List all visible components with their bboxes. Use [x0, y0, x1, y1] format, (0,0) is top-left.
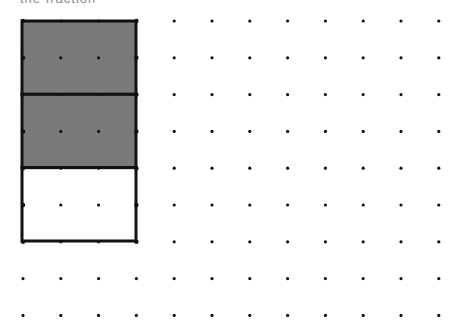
grid-dot	[324, 277, 327, 280]
grid-dot	[59, 93, 62, 96]
grid-dot	[437, 130, 440, 133]
grid-dot	[248, 167, 251, 170]
grid-dot	[134, 203, 138, 207]
grid-dot	[399, 167, 402, 170]
grid-dot	[173, 240, 176, 243]
grid-dot	[97, 130, 100, 133]
grid-dot	[135, 277, 138, 280]
grid-dot	[21, 19, 25, 23]
grid-dot	[248, 93, 251, 96]
grid-dot	[134, 129, 138, 133]
grid-dot	[324, 56, 327, 59]
grid-dot	[97, 277, 100, 280]
grid-dot	[399, 19, 402, 22]
grid-dot	[399, 93, 402, 96]
grid-dot	[97, 240, 100, 243]
grid-dot	[286, 277, 289, 280]
grid-dot	[399, 314, 402, 317]
grid-dot	[362, 93, 365, 96]
grid-dot	[173, 130, 176, 133]
grid-dot	[248, 314, 251, 317]
grid-dot	[399, 240, 402, 243]
grid-dot	[134, 92, 138, 96]
grid-dot	[59, 314, 62, 317]
grid-dot	[362, 130, 365, 133]
grid-dot	[248, 203, 251, 206]
grid-dot	[437, 19, 440, 22]
grid-dot	[399, 56, 402, 59]
grid-dot	[21, 56, 25, 60]
grid-dot	[21, 92, 25, 96]
grid-dot	[324, 314, 327, 317]
grid-dot	[97, 19, 100, 22]
grid-dot	[59, 19, 62, 22]
fraction-rectangle	[22, 21, 136, 241]
shaded-part	[22, 94, 136, 167]
grid-dot	[173, 19, 176, 22]
grid-dot	[135, 314, 138, 317]
grid-dot	[210, 93, 213, 96]
fraction-dot-grid-diagram	[0, 0, 465, 333]
unshaded-part	[22, 168, 136, 241]
grid-dot	[97, 56, 100, 59]
grid-dot	[362, 314, 365, 317]
grid-dot	[134, 240, 138, 244]
grid-dot	[248, 56, 251, 59]
grid-dot	[324, 203, 327, 206]
grid-dot	[437, 167, 440, 170]
grid-dot	[59, 203, 62, 206]
grid-dot	[286, 93, 289, 96]
grid-dot	[59, 277, 62, 280]
grid-dot	[248, 130, 251, 133]
grid-dot	[399, 130, 402, 133]
grid-dot	[134, 56, 138, 60]
grid-dot	[210, 167, 213, 170]
grid-dot	[399, 277, 402, 280]
grid-dot	[362, 167, 365, 170]
grid-dot	[362, 240, 365, 243]
grid-dot	[59, 130, 62, 133]
grid-dot	[286, 203, 289, 206]
grid-dot	[210, 240, 213, 243]
grid-dot	[210, 19, 213, 22]
grid-dot	[286, 19, 289, 22]
grid-dot	[362, 203, 365, 206]
grid-dot	[248, 277, 251, 280]
grid-dot	[173, 56, 176, 59]
grid-dot	[286, 130, 289, 133]
grid-dot	[437, 93, 440, 96]
grid-dot	[324, 167, 327, 170]
grid-dot	[286, 314, 289, 317]
grid-dot	[134, 19, 138, 23]
grid-dot	[173, 277, 176, 280]
grid-dot	[437, 203, 440, 206]
grid-dot	[59, 240, 62, 243]
shaded-part	[22, 21, 136, 94]
grid-dot	[21, 166, 25, 170]
grid-dot	[324, 130, 327, 133]
grid-dot	[210, 56, 213, 59]
grid-dot	[21, 277, 24, 280]
grid-dot	[324, 240, 327, 243]
grid-dot	[173, 93, 176, 96]
grid-dot	[97, 203, 100, 206]
grid-dot	[59, 167, 62, 170]
grid-dot	[286, 167, 289, 170]
grid-dot	[173, 167, 176, 170]
grid-dot	[437, 240, 440, 243]
grid-dot	[21, 240, 25, 244]
grid-dot	[324, 19, 327, 22]
grid-dot	[437, 277, 440, 280]
grid-dot	[173, 203, 176, 206]
grid-dot	[248, 19, 251, 22]
grid-dot	[21, 314, 24, 317]
grid-dot	[362, 56, 365, 59]
grid-dot	[97, 93, 100, 96]
grid-dot	[210, 277, 213, 280]
grid-dot	[437, 56, 440, 59]
grid-dot	[286, 240, 289, 243]
grid-dot	[399, 203, 402, 206]
grid-dot	[97, 167, 100, 170]
grid-dot	[173, 314, 176, 317]
grid-dot	[437, 314, 440, 317]
